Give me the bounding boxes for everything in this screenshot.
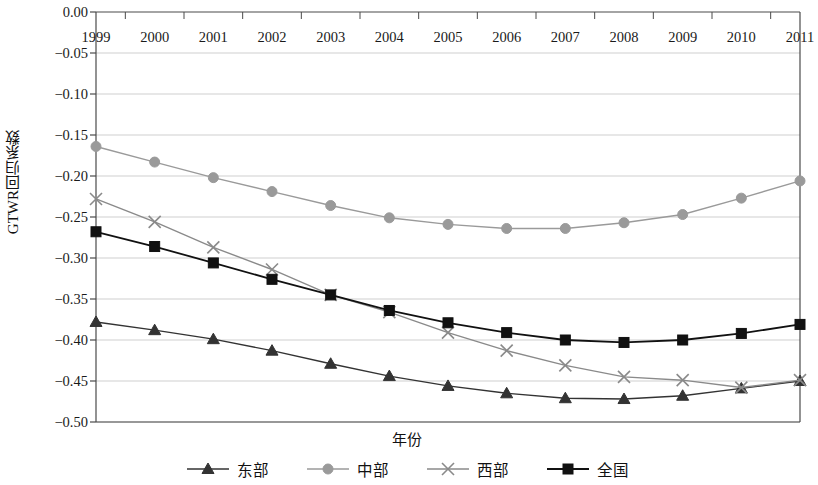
data-point [619, 337, 629, 347]
legend-marker-triangle-icon [185, 461, 231, 477]
legend-label: 东部 [237, 458, 269, 480]
data-series-layer [90, 141, 806, 403]
legend-item-全国[interactable]: 全国 [545, 458, 629, 480]
data-point [326, 201, 336, 211]
y-tick-label: −0.35 [32, 292, 88, 307]
data-point [91, 227, 101, 237]
data-point [150, 157, 160, 167]
data-point [267, 274, 277, 284]
data-point [384, 213, 394, 223]
data-point [326, 290, 336, 300]
data-point [678, 335, 688, 345]
y-axis-tick-labels: 0.00−0.05−0.10−0.15−0.20−0.25−0.30−0.35−… [20, 0, 88, 485]
y-tick-label: −0.45 [32, 374, 88, 389]
legend-item-西部[interactable]: 西部 [425, 458, 509, 480]
series-line [96, 146, 800, 228]
data-point [442, 327, 454, 339]
y-tick-label: 0.00 [32, 5, 88, 20]
data-point [90, 316, 102, 327]
chart-legend: 东部中部西部全国 [0, 458, 813, 480]
data-point [443, 318, 453, 328]
y-tick-label: −0.25 [32, 210, 88, 225]
legend-label: 全国 [597, 458, 629, 480]
data-point [267, 187, 277, 197]
legend-item-东部[interactable]: 东部 [185, 458, 269, 480]
data-point [619, 218, 629, 228]
series-中部 [91, 141, 805, 233]
data-point [266, 263, 278, 275]
legend-marker-square-icon [545, 461, 591, 477]
y-tick-label: −0.15 [32, 128, 88, 143]
data-point [678, 210, 688, 220]
data-point [560, 335, 570, 345]
series-东部 [90, 316, 806, 404]
data-point [736, 193, 746, 203]
legend-label: 中部 [357, 458, 389, 480]
data-point [736, 328, 746, 338]
y-tick-label: −0.40 [32, 333, 88, 348]
data-point [443, 219, 453, 229]
data-point [563, 464, 573, 474]
data-point [502, 328, 512, 338]
data-point [795, 176, 805, 186]
legend-label: 西部 [477, 458, 509, 480]
y-tick-label: −0.20 [32, 169, 88, 184]
y-tick-label: −0.30 [32, 251, 88, 266]
y-axis-title: GTWR回归系数 [2, 130, 30, 234]
data-point [501, 345, 513, 357]
data-point [149, 216, 161, 228]
gridlines [96, 53, 800, 422]
legend-marker-circle-icon [305, 461, 351, 477]
data-point [207, 241, 219, 253]
legend-marker-x-icon [425, 461, 471, 477]
data-point [208, 173, 218, 183]
data-point [560, 223, 570, 233]
legend-item-中部[interactable]: 中部 [305, 458, 389, 480]
data-point [559, 359, 571, 371]
series-全国 [91, 227, 805, 348]
data-point [91, 141, 101, 151]
data-point [150, 242, 160, 252]
x-axis-title: 年份 [0, 428, 813, 449]
y-tick-label: −0.10 [32, 87, 88, 102]
data-point [795, 319, 805, 329]
data-point [323, 464, 333, 474]
data-point [208, 258, 218, 268]
y-tick-label: −0.05 [32, 46, 88, 61]
data-point [384, 305, 394, 315]
data-point [502, 223, 512, 233]
